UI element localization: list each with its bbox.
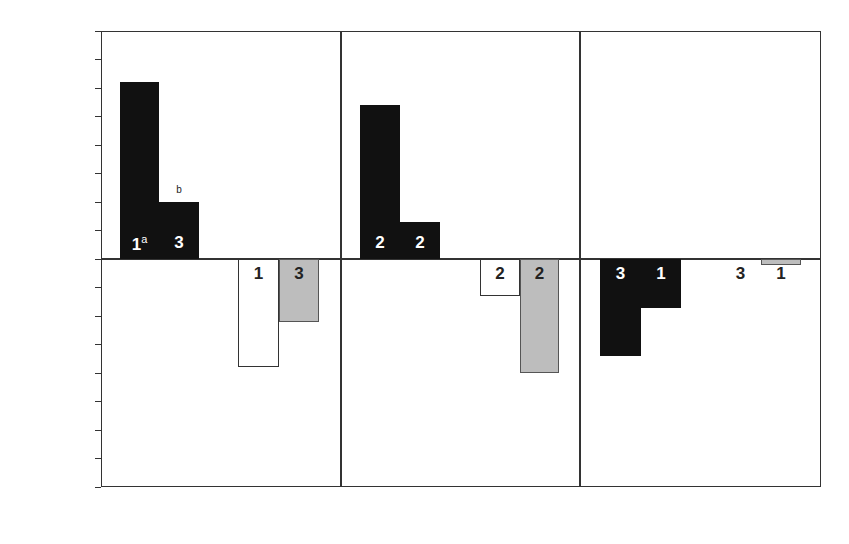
y-major-tick: [95, 373, 101, 374]
condition-label: 2: [400, 233, 440, 253]
y-major-tick: [95, 88, 101, 89]
zero-line: [101, 258, 821, 260]
y-major-tick: [95, 259, 101, 260]
condition-label: 2: [360, 233, 400, 253]
y-minor-tick: [95, 458, 101, 459]
condition-label: 1: [239, 264, 279, 284]
y-minor-tick: [95, 401, 101, 402]
condition-label: 1: [761, 264, 801, 284]
y-major-tick: [95, 145, 101, 146]
value-label: b: [154, 184, 204, 201]
y-minor-tick: [95, 173, 101, 174]
y-minor-tick: [95, 344, 101, 345]
y-major-tick: [95, 487, 101, 488]
bar-chart: 1ab31322223131: [0, 0, 849, 544]
y-minor-tick: [95, 287, 101, 288]
y-minor-tick: [95, 116, 101, 117]
panel-divider: [579, 31, 581, 487]
condition-label: 2: [520, 264, 560, 284]
panel-divider: [340, 31, 342, 487]
condition-label: 3: [279, 264, 319, 284]
y-minor-tick: [95, 230, 101, 231]
y-major-tick: [95, 31, 101, 32]
condition-label: 1: [641, 264, 681, 284]
y-major-tick: [95, 316, 101, 317]
condition-label: 3: [721, 264, 761, 284]
y-major-tick: [95, 202, 101, 203]
condition-label: 3: [601, 264, 641, 284]
y-minor-tick: [95, 59, 101, 60]
condition-label: 2: [480, 264, 520, 284]
y-major-tick: [95, 430, 101, 431]
condition-label: 3: [159, 233, 199, 253]
condition-label: 1a: [120, 233, 160, 255]
